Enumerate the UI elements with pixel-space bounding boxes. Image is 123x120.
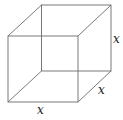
height-label: x	[113, 33, 120, 45]
width-label: x	[37, 104, 44, 116]
cube-edge-top-right	[78, 5, 111, 36]
cube-edge-bottom-left	[8, 71, 42, 102]
cube-diagram	[0, 0, 123, 120]
cube-edge-bottom-right	[78, 71, 111, 102]
cube-edge-top-left	[8, 5, 42, 36]
depth-label: x	[98, 84, 105, 96]
